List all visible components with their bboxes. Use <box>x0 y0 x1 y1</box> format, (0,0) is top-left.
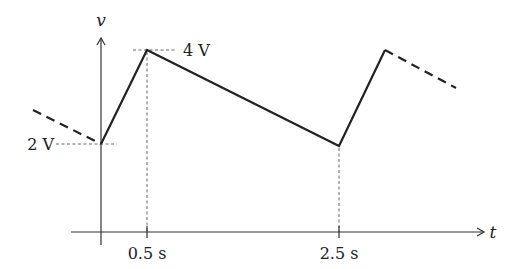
waveform-dashed-end <box>385 50 456 88</box>
waveform-diagram: v t 4 V 2 V 0.5 s 2.5 s <box>0 0 519 269</box>
label-2-5s: 2.5 s <box>320 244 359 263</box>
axes <box>71 38 484 245</box>
y-axis-label: v <box>96 10 106 30</box>
label-2v: 2 V <box>27 135 54 154</box>
waveform <box>33 50 456 146</box>
waveform-solid <box>101 50 385 146</box>
label-0-5s: 0.5 s <box>128 244 167 263</box>
label-4v: 4 V <box>183 41 210 60</box>
x-axis-label: t <box>490 222 497 242</box>
guide-lines <box>56 50 339 232</box>
